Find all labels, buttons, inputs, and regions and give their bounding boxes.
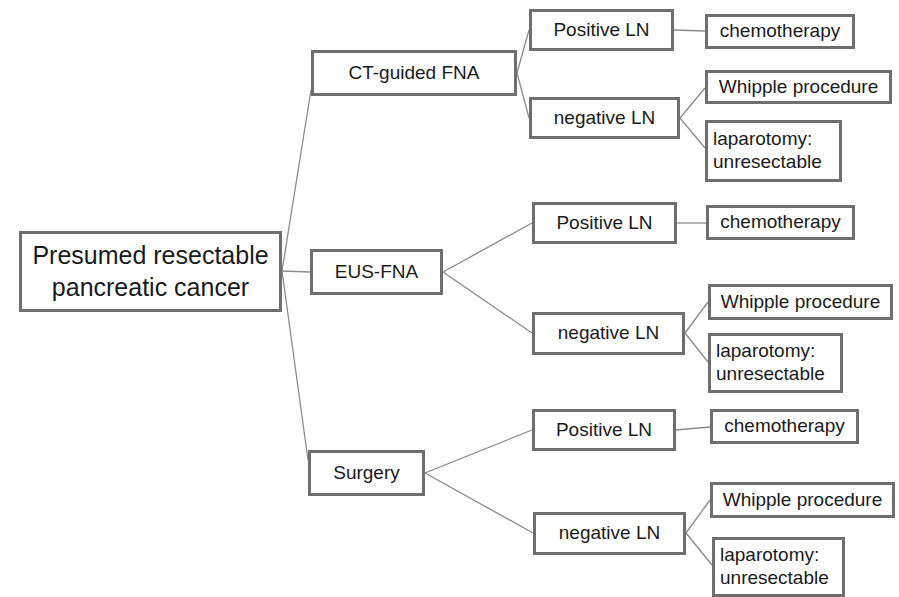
ct-negative-ln: negative LN — [529, 97, 680, 139]
surgery-negative-ln: negative LN — [533, 512, 686, 555]
root-node: Presumed resectable pancreatic cancer — [19, 231, 282, 312]
eus-laparotomy-unresectable: laparotomy: unresectable — [708, 333, 843, 393]
eus-whipple-procedure: Whipple procedure — [708, 284, 893, 320]
branch-eus-fna: EUS-FNA — [310, 249, 443, 295]
ct-chemotherapy: chemotherapy — [705, 14, 855, 49]
eus-positive-ln: Positive LN — [532, 202, 677, 244]
surgery-whipple-procedure: Whipple procedure — [710, 482, 895, 518]
ct-whipple-procedure: Whipple procedure — [705, 70, 892, 104]
eus-chemotherapy: chemotherapy — [706, 205, 855, 240]
eus-negative-ln: negative LN — [532, 312, 685, 355]
ct-positive-ln: Positive LN — [529, 9, 674, 51]
surgery-laparotomy-unresectable: laparotomy: unresectable — [712, 537, 845, 597]
surgery-positive-ln: Positive LN — [532, 409, 676, 451]
surgery-chemotherapy: chemotherapy — [710, 409, 859, 444]
ct-laparotomy-unresectable: laparotomy: unresectable — [705, 120, 842, 182]
branch-ct-guided-fna: CT-guided FNA — [311, 50, 517, 96]
branch-surgery: Surgery — [308, 450, 425, 496]
